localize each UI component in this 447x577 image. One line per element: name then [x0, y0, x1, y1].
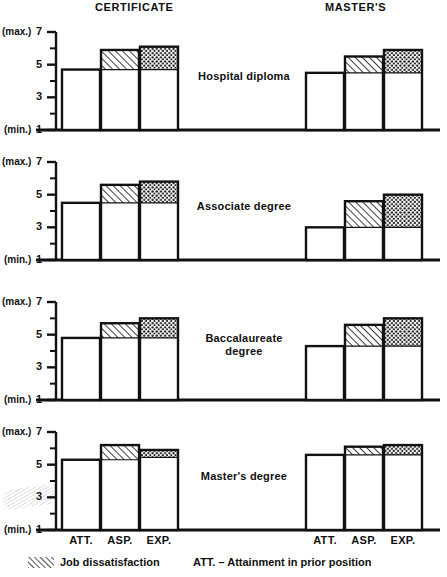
y-axis-tick-label-3: 3 [30, 491, 42, 502]
y-axis-min-label: (min.) [4, 525, 31, 535]
bar-certificate-exp [140, 450, 178, 530]
y-axis-tick-label-1: 1 [30, 254, 42, 265]
bar-overlay-dot [140, 182, 178, 203]
column-header-certificate: CERTIFICATE [95, 1, 174, 13]
bar-overlay-dot [384, 445, 422, 455]
bar-overlay-hatch [345, 57, 383, 73]
y-axis-tick-label-5: 5 [30, 189, 42, 200]
x-axis-tick-label-certificate-exp: EXP. [140, 534, 178, 546]
bar-masters-att [306, 73, 344, 130]
panel-caption: Master's degree [188, 470, 300, 483]
legend-label-att-definition: ATT. – Attainment in prior position [193, 556, 371, 568]
bar-certificate-att [62, 70, 100, 130]
figure-grouped-bar-chart: CERTIFICATE MASTER'S (max.)(min.)7531Hos… [0, 0, 447, 577]
bar-masters-exp [384, 318, 422, 400]
bar-overlay-hatch [345, 447, 383, 455]
bar-masters-asp [345, 57, 383, 131]
y-axis-tick-label-7: 7 [30, 26, 42, 37]
y-axis-min-label: (min.) [4, 125, 31, 135]
bar-certificate-asp [101, 50, 139, 130]
bar-overlay-hatch [101, 323, 139, 338]
column-header-masters: MASTER'S [325, 1, 386, 13]
y-axis-tick-label-5: 5 [30, 459, 42, 470]
y-axis-tick-label-7: 7 [30, 156, 42, 167]
y-axis-tick-label-5: 5 [30, 59, 42, 70]
bar-overlay-hatch [101, 185, 139, 203]
bar-masters-asp [345, 325, 383, 400]
bar-overlay-dot [140, 47, 178, 70]
y-axis-max-label: (max.) [2, 297, 31, 307]
legend-label-job-dissatisfaction: Job dissatisfaction [60, 556, 160, 568]
panel-caption: Associate degree [188, 200, 300, 213]
y-axis-min-label: (min.) [4, 395, 31, 405]
y-axis-tick-label-1: 1 [30, 524, 42, 535]
x-axis-tick-label-masters-att: ATT. [306, 534, 344, 546]
bar-masters-asp [345, 447, 383, 530]
bar-masters-asp [345, 201, 383, 260]
legend-item-att-definition: ATT. – Attainment in prior position [193, 556, 371, 568]
y-axis-tick-label-5: 5 [30, 329, 42, 340]
x-axis-tick-label-masters-exp: EXP. [384, 534, 422, 546]
bar-certificate-att [62, 338, 100, 400]
y-axis-min-label: (min.) [4, 255, 31, 265]
bar-masters-exp [384, 445, 422, 530]
bar-certificate-exp [140, 182, 178, 260]
bar-masters-att [306, 455, 344, 530]
chart-legend: Job dissatisfaction ATT. – Attainment in… [0, 552, 447, 577]
bar-masters-att [306, 346, 344, 400]
bar-overlay-hatch [101, 445, 139, 460]
panel-masters-degree: (max.)(min.)7531Master's degreeATT.ASP.E… [0, 414, 447, 544]
y-axis-max-label: (max.) [2, 157, 31, 167]
y-axis-tick-label-3: 3 [30, 221, 42, 232]
bar-certificate-asp [101, 445, 139, 530]
panel-caption-line2: degree [188, 345, 300, 358]
bar-certificate-asp [101, 323, 139, 400]
bar-certificate-asp [101, 185, 139, 260]
bar-overlay-dot [384, 195, 422, 228]
y-axis-tick-label-7: 7 [30, 426, 42, 437]
bar-overlay-dot [140, 318, 178, 338]
bar-overlay-hatch [345, 325, 383, 346]
bar-masters-exp [384, 195, 422, 260]
bar-certificate-att [62, 203, 100, 260]
bar-certificate-att [62, 460, 100, 530]
panel-associate-degree: (max.)(min.)7531Associate degree [0, 144, 447, 274]
bar-masters-exp [384, 50, 422, 130]
y-axis-tick-label-3: 3 [30, 91, 42, 102]
bar-certificate-exp [140, 47, 178, 130]
x-axis-tick-label-masters-asp: ASP. [345, 534, 383, 546]
y-axis-max-label: (max.) [2, 427, 31, 437]
y-axis-tick-label-7: 7 [30, 296, 42, 307]
bar-certificate-exp [140, 318, 178, 400]
x-axis-tick-label-certificate-asp: ASP. [101, 534, 139, 546]
panel-caption: Baccalaureatedegree [188, 332, 300, 358]
y-axis-tick-label-1: 1 [30, 124, 42, 135]
y-axis-max-label: (max.) [2, 27, 31, 37]
panel-hospital-diploma: (max.)(min.)7531Hospital diploma [0, 14, 447, 144]
bar-masters-att [306, 227, 344, 260]
y-axis-tick-label-3: 3 [30, 361, 42, 372]
panel-caption: Hospital diploma [188, 70, 300, 83]
bar-overlay-dot [384, 318, 422, 346]
x-axis-tick-label-certificate-att: ATT. [62, 534, 100, 546]
bar-overlay-dot [384, 50, 422, 73]
y-axis-tick-label-1: 1 [30, 394, 42, 405]
panel-baccalaureate-degree: (max.)(min.)7531Baccalaureatedegree [0, 284, 447, 414]
hatch-swatch-icon [28, 557, 54, 568]
bar-overlay-hatch [101, 50, 139, 70]
bar-overlay-hatch [345, 201, 383, 227]
